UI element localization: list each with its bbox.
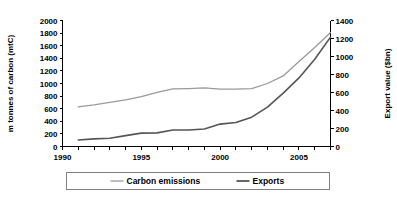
y-tick-label-left: 400 xyxy=(44,117,58,126)
y-tick-label-left: 1800 xyxy=(40,29,58,38)
y-tick-label-left: 800 xyxy=(44,92,58,101)
y-tick-label-left: 1000 xyxy=(40,80,58,89)
series-line-carbon-emissions xyxy=(78,32,330,106)
x-tick-label: 1995 xyxy=(132,153,150,162)
y-tick-label-right: 1000 xyxy=(336,53,354,62)
y-tick-label-right: 1400 xyxy=(336,17,354,26)
y-tick-label-left: 600 xyxy=(44,105,58,114)
x-tick-label: 2000 xyxy=(211,153,229,162)
line-chart: 0200400600800100012001400160018002000020… xyxy=(0,0,397,199)
y-axis-left-title: m tonnes of carbon (mtC) xyxy=(6,35,15,133)
legend-label-1: Exports xyxy=(253,176,285,186)
y-tick-label-left: 200 xyxy=(44,130,58,139)
y-tick-label-right: 400 xyxy=(336,107,350,116)
y-tick-label-left: 2000 xyxy=(40,17,58,26)
y-tick-label-right: 800 xyxy=(336,71,350,80)
y-axis-right-title: Export value ($bn) xyxy=(383,48,392,118)
y-tick-label-left: 1200 xyxy=(40,67,58,76)
y-tick-label-right: 600 xyxy=(336,89,350,98)
y-tick-label-right: 200 xyxy=(336,125,350,134)
y-tick-label-left: 0 xyxy=(53,143,58,152)
x-tick-label: 2005 xyxy=(290,153,308,162)
legend-label-0: Carbon emissions xyxy=(127,176,201,186)
y-tick-label-left: 1400 xyxy=(40,54,58,63)
y-tick-label-left: 1600 xyxy=(40,42,58,51)
chart-container: 0200400600800100012001400160018002000020… xyxy=(0,0,397,199)
y-tick-label-right: 1200 xyxy=(336,35,354,44)
x-tick-label: 1990 xyxy=(54,153,72,162)
series-line-exports xyxy=(78,37,330,140)
y-tick-label-right: 0 xyxy=(336,143,341,152)
